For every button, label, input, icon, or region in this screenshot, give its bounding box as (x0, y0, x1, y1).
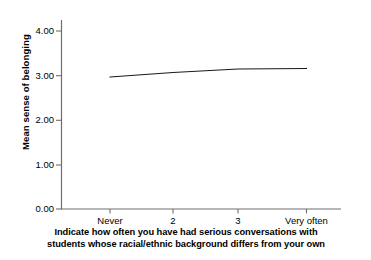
x-tick-label-very-often: Very often (285, 216, 328, 226)
x-tick-label-3: 3 (235, 216, 240, 226)
data-line-mean-sense-of-belonging (110, 69, 307, 78)
x-axis-caption-line-1: Indicate how often you have had serious … (28, 227, 344, 239)
chart-figure: Mean sense of belonging 4.00 3.00 2.00 1… (0, 0, 371, 260)
x-tick-marks (110, 209, 307, 214)
x-axis-caption: Indicate how often you have had serious … (28, 227, 344, 250)
y-tick-marks (56, 31, 62, 209)
x-tick-label-never: Never (97, 216, 122, 226)
x-tick-label-2: 2 (170, 216, 175, 226)
x-axis-caption-line-2: students whose racial/ethnic background … (28, 239, 344, 251)
